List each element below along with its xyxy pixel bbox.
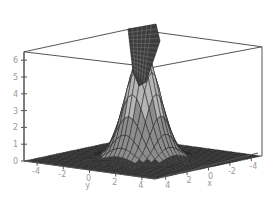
z-tick-label: 3 (13, 107, 18, 116)
y-tick-label: -2 (58, 170, 66, 179)
x-tick-label: -4 (249, 162, 257, 171)
z-tick-label: 6 (13, 56, 18, 65)
z-tick-label: 1 (13, 140, 18, 149)
z-tick-label: 5 (13, 73, 18, 82)
y-tick-label: 2 (112, 178, 117, 187)
y-tick-label: 4 (138, 181, 143, 190)
box-top-front-right-edge (153, 47, 262, 68)
z-tick-label: 2 (13, 123, 18, 132)
y-tick-label: -4 (32, 167, 40, 176)
surface-plot: 0123456-4-2024y420-2-4x (0, 0, 276, 201)
x-axis-label: x (207, 179, 212, 188)
box-top-back-left-edge (24, 29, 131, 52)
z-tick-label: 0 (13, 157, 18, 166)
x-tick-label: 2 (187, 176, 192, 185)
y-axis-label: y (85, 181, 90, 190)
x-tick-label: -2 (228, 167, 236, 176)
x-tick-label: 4 (165, 181, 170, 190)
z-tick-label: 4 (13, 90, 18, 99)
